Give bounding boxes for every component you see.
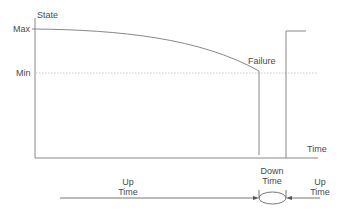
degradation-curve — [35, 29, 259, 155]
up-time-label-left: Up Time — [108, 177, 148, 197]
restoration-line — [286, 31, 306, 158]
x-axis-label: Time — [307, 144, 327, 154]
y-axis-label: State — [37, 10, 58, 20]
arrowhead-right-icon — [253, 196, 259, 200]
arrowhead-left-icon — [286, 196, 292, 200]
min-level-label: Min — [16, 68, 31, 78]
down-time-ellipse — [259, 192, 286, 204]
max-level-label: Max — [13, 24, 30, 34]
up-time-label-right: Up Time — [300, 177, 340, 197]
failure-label: Failure — [248, 56, 276, 66]
down-time-label: Down Time — [252, 166, 292, 186]
